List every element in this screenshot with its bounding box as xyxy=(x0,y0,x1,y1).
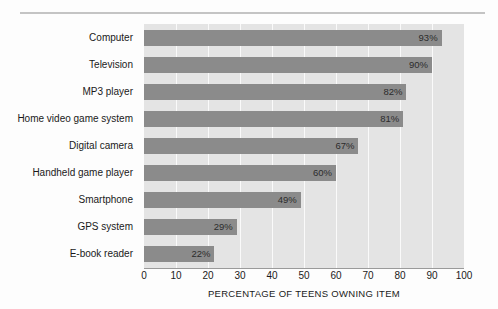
category-label: Handheld game player xyxy=(0,165,138,181)
bars-container: 93%90%82%81%67%60%49%29%22% xyxy=(144,24,464,268)
category-label: Smartphone xyxy=(0,192,138,208)
bar-row: 90% xyxy=(144,57,464,73)
bar-value-label: 82% xyxy=(144,84,406,100)
plot-area: 93%90%82%81%67%60%49%29%22% xyxy=(144,24,464,268)
bar-row: 22% xyxy=(144,246,464,262)
x-axis-line xyxy=(144,268,464,269)
bar-row: 82% xyxy=(144,84,464,100)
x-tick-label: 10 xyxy=(170,270,181,281)
category-axis-labels: ComputerTelevisionMP3 playerHome video g… xyxy=(0,24,138,268)
page-background: ComputerTelevisionMP3 playerHome video g… xyxy=(0,0,498,309)
x-tick-label: 90 xyxy=(426,270,437,281)
x-axis-tick-labels: 0102030405060708090100 xyxy=(144,270,464,284)
x-tick-label: 30 xyxy=(234,270,245,281)
category-label: Home video game system xyxy=(0,111,138,127)
x-tick-label: 80 xyxy=(394,270,405,281)
category-label: MP3 player xyxy=(0,84,138,100)
x-axis-title: PERCENTAGE OF TEENS OWNING ITEM xyxy=(144,288,464,299)
x-tick-label: 50 xyxy=(298,270,309,281)
bar-value-label: 29% xyxy=(144,219,237,235)
category-label: GPS system xyxy=(0,219,138,235)
bar-value-label: 90% xyxy=(144,57,432,73)
bar-value-label: 93% xyxy=(144,30,442,46)
category-label: Digital camera xyxy=(0,138,138,154)
x-tick-label: 40 xyxy=(266,270,277,281)
bar-value-label: 22% xyxy=(144,246,214,262)
category-label: Computer xyxy=(0,30,138,46)
bar-value-label: 81% xyxy=(144,111,403,127)
bar-value-label: 67% xyxy=(144,138,358,154)
x-tick-label: 20 xyxy=(202,270,213,281)
x-tick-label: 0 xyxy=(141,270,147,281)
bar-row: 49% xyxy=(144,192,464,208)
bar-value-label: 60% xyxy=(144,165,336,181)
bar-row: 93% xyxy=(144,30,464,46)
x-tick-label: 70 xyxy=(362,270,373,281)
bar-row: 29% xyxy=(144,219,464,235)
bar-row: 67% xyxy=(144,138,464,154)
bar-value-label: 49% xyxy=(144,192,301,208)
category-label: Television xyxy=(0,57,138,73)
bar-chart-figure: ComputerTelevisionMP3 playerHome video g… xyxy=(0,0,498,309)
bar-row: 81% xyxy=(144,111,464,127)
x-tick-label: 60 xyxy=(330,270,341,281)
category-label: E-book reader xyxy=(0,246,138,262)
x-tick-label: 100 xyxy=(456,270,473,281)
bar-row: 60% xyxy=(144,165,464,181)
